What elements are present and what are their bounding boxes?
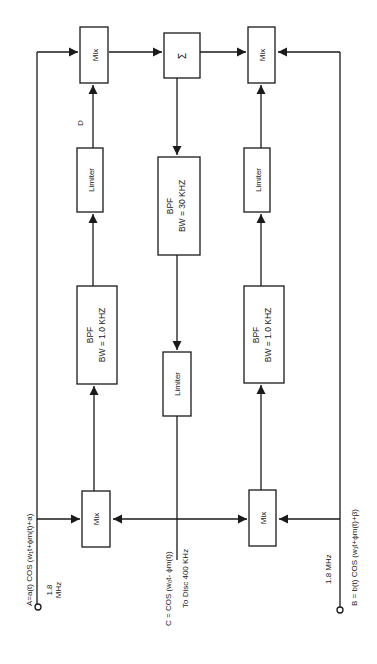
input-b-frequency: 1.8 MHz (324, 554, 333, 584)
sum-block: Σ (164, 33, 200, 78)
input-a-frequency-unit: MHz (54, 582, 63, 598)
bpf-center-block: BPF BW = 30 KHZ (158, 157, 200, 255)
input-b-line (278, 52, 343, 613)
input-b-equation: B = b(t) COS (w₁t+ϕm(t)+β) (350, 509, 359, 606)
bpf-right-block: BPF BW = 1.0 KHZ (244, 286, 284, 383)
mix-top-right-label: Mix (258, 49, 267, 61)
mix-top-right-block: Mix (248, 27, 275, 83)
to-disc-label: To Disc 400 KHz (181, 549, 190, 608)
bpf-right-title: BPF (251, 327, 261, 344)
signal-c-line (113, 416, 247, 560)
bpf-right-bandwidth: BW = 1.0 KHZ (263, 308, 273, 363)
bpf-left-block: BPF BW = 1.0 KHZ (77, 286, 117, 384)
mix-bottom-left-block: Mix (82, 491, 110, 547)
mix-bottom-left-label: Mix (92, 513, 101, 525)
limiter-left-label: Limiter (87, 168, 96, 192)
bpf-left-bandwidth: BW = 1.0 KHZ (97, 308, 107, 363)
signal-c-equation: C = COS (w₀t- ϕm(t)) (164, 551, 173, 626)
input-a-line (35, 52, 80, 610)
input-a-equation: A=a(t) COS (w₁t+ϕm(t)+a) (25, 513, 34, 606)
block-diagram: Mix Σ Mix Limiter BPF BW = 30 KHZ Limite… (0, 0, 377, 664)
sum-label: Σ (177, 53, 188, 59)
limiter-center-block: Limiter (163, 352, 191, 416)
limiter-left-block: Limiter (77, 148, 103, 212)
limiter-right-label: Limiter (254, 168, 263, 192)
limiter-center-label: Limiter (173, 372, 182, 396)
mix-bottom-right-block: Mix (249, 490, 276, 546)
input-a-terminal (35, 604, 41, 610)
input-b-terminal (337, 607, 343, 613)
signal-d-label: D (76, 120, 85, 126)
input-a-frequency-value: 1.8 (45, 584, 54, 596)
bpf-center-bandwidth: BW = 30 KHZ (177, 180, 187, 232)
mix-top-left-label: Mix (91, 49, 100, 61)
limiter-right-block: Limiter (244, 148, 270, 212)
mix-top-left-block: Mix (80, 27, 108, 83)
bpf-left-title: BPF (85, 327, 95, 344)
mix-bottom-right-label: Mix (259, 512, 268, 524)
bpf-center-title: BPF (165, 198, 175, 215)
